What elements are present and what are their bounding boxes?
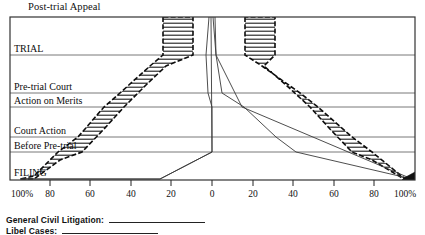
axis-tick-label: 80: [369, 189, 379, 199]
legend-item-general-civil-litigation: General Civil Litigation:: [6, 214, 425, 225]
stage-label-filing: FILING: [14, 167, 47, 178]
stage-label-trial: TRIAL: [14, 43, 43, 54]
litigation-funnel-chart: TRIAL Pre-trial Court Action on Merits C…: [0, 0, 425, 210]
legend-item-libel-cases: Libel Cases:: [6, 225, 425, 235]
axis-tick-label: 20: [166, 189, 176, 199]
legend-label: Libel Cases:: [6, 226, 57, 235]
stage-label-pre-trial-court: Pre-trial Court: [14, 81, 72, 92]
axis-tick-label: 100%: [11, 189, 33, 199]
legend-label: General Civil Litigation:: [6, 215, 104, 225]
axis-tick-labels: 100% 80 60 40 20 0 20 40 60 80 100%: [11, 189, 416, 199]
axis-tick-label: 60: [329, 189, 339, 199]
stage-label-court-action: Court Action: [14, 125, 66, 136]
axis-tick-label: 40: [288, 189, 298, 199]
axis-ticks: [50, 180, 374, 186]
stage-label-before-pre-trial: Before Pre-trial: [14, 140, 77, 151]
axis-tick-label: 40: [126, 189, 136, 199]
legend: General Civil Litigation: Libel Cases:: [6, 214, 425, 235]
axis-tick-label: 60: [85, 189, 95, 199]
axis-tick-label: 100%: [394, 189, 416, 199]
legend-line-swatch: [109, 222, 205, 223]
axis-tick-label: 0: [210, 189, 215, 199]
axis-tick-label: 20: [248, 189, 258, 199]
axis-tick-label: 80: [45, 189, 55, 199]
legend-line-swatch: [62, 233, 158, 234]
chart-root: Post-trial Appeal: [0, 0, 425, 235]
stage-label-action-on-merits: Action on Merits: [14, 95, 82, 106]
